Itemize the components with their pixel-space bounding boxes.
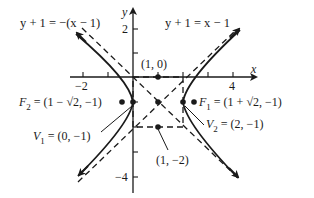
asymptote-right-label: y + 1 = x − 1 bbox=[165, 16, 230, 30]
focus-f1-label: F1 = (1 + √2, −1) bbox=[198, 95, 282, 112]
x-tick-label-4: 4 bbox=[229, 79, 235, 93]
right-lower-arrow-icon bbox=[229, 168, 238, 177]
leader-v1 bbox=[101, 106, 132, 132]
y-tick-label-neg4: −4 bbox=[115, 170, 128, 184]
focus-f1 bbox=[191, 99, 197, 105]
point-bottom-label: (1, −2) bbox=[156, 153, 189, 167]
vertex-v2-label: V2 = (2, −1) bbox=[206, 117, 263, 134]
point-top-label: (1, 0) bbox=[141, 57, 167, 71]
hyperbola-diagram: −2 4 2 −4 x y y + 1 = −(x − 1) y + 1 = x… bbox=[0, 0, 314, 198]
point-center bbox=[155, 99, 161, 105]
left-upper-arrow-icon bbox=[77, 33, 86, 42]
vertex-v2 bbox=[180, 99, 186, 105]
y-axis-label: y bbox=[121, 5, 128, 19]
vertex-v1-label: V1 = (0, −1) bbox=[33, 129, 90, 146]
x-axis-label: x bbox=[250, 62, 257, 76]
focus-f2-label: F2 = (1 − √2, −1) bbox=[18, 95, 102, 112]
right-upper-arrow-icon bbox=[230, 29, 239, 38]
asymptote-left-label: y + 1 = −(x − 1) bbox=[20, 16, 100, 30]
point-bottom bbox=[155, 124, 161, 130]
x-tick-label-neg2: −2 bbox=[75, 79, 88, 93]
vertex-v1 bbox=[130, 99, 136, 105]
focus-f2 bbox=[119, 99, 125, 105]
y-tick-label-2: 2 bbox=[122, 22, 128, 36]
leader-bottom bbox=[158, 129, 168, 150]
point-top bbox=[155, 74, 161, 80]
